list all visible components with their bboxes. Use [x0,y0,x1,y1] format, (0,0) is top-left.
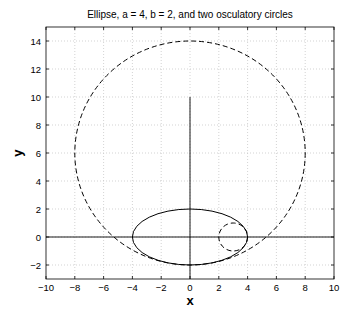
y-axis-label: y [10,149,25,157]
y-tick-label: 2 [36,204,41,215]
x-tick-label: −6 [98,282,109,293]
x-tick-label: −8 [69,282,80,293]
chart-title: Ellipse, a = 4, b = 2, and two osculator… [87,9,293,20]
y-tick-label: 6 [36,148,41,159]
y-tick-label: 0 [36,232,41,243]
x-tick-label: 4 [245,282,250,293]
y-tick-label: 10 [30,92,41,103]
x-tick-label: 8 [303,282,308,293]
x-tick-label: −4 [127,282,138,293]
x-tick-label: −2 [156,282,167,293]
x-tick-label: 2 [216,282,221,293]
x-tick-label: 6 [274,282,279,293]
chart: −10−8−6−4−20246810−202468101214Ellipse, … [0,0,359,318]
x-tick-label: −10 [38,282,54,293]
x-tick-label: 0 [187,282,192,293]
y-tick-label: −2 [30,260,41,271]
y-tick-label: 8 [36,120,41,131]
y-tick-label: 12 [30,64,41,75]
y-tick-label: 4 [36,176,41,187]
x-tick-label: 10 [329,282,340,293]
y-tick-label: 14 [30,36,41,47]
x-axis-label: x [186,293,194,308]
